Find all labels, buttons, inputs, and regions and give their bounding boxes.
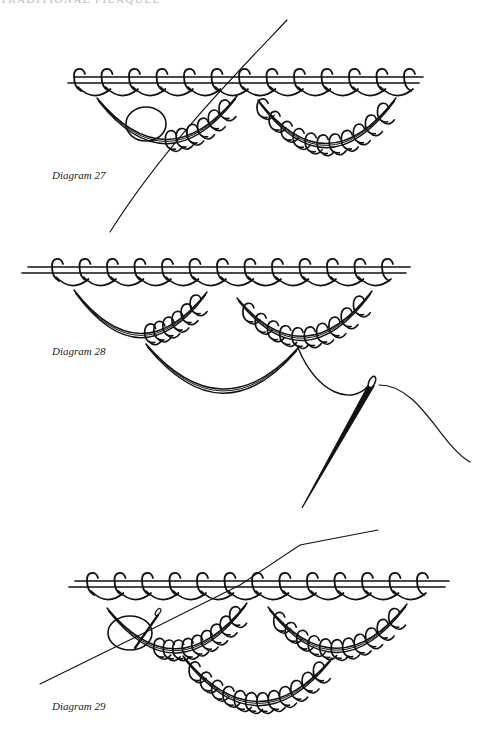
lace-diagrams-canvas — [0, 0, 484, 733]
diagram-27-caption: Diagram 27 — [52, 169, 105, 181]
diagram-29-illustration — [40, 530, 449, 714]
diagram-29-caption: Diagram 29 — [52, 700, 105, 712]
diagram-27-illustration — [68, 20, 423, 232]
diagram-28-caption: Diagram 28 — [52, 345, 105, 357]
diagram-28-illustration — [22, 259, 470, 508]
